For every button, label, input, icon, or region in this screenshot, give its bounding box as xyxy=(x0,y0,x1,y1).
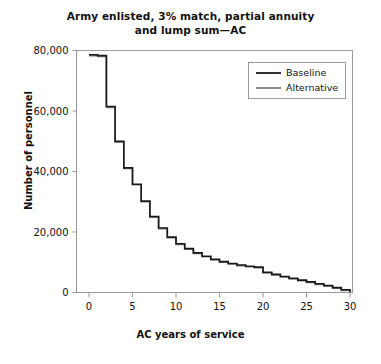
y-tick-label: 0 xyxy=(62,287,68,298)
legend-label-baseline: Baseline xyxy=(286,67,326,78)
chart-legend: BaselineAlternative xyxy=(249,63,346,99)
y-axis-label: Number of personnel xyxy=(23,61,34,241)
x-tick-label: 30 xyxy=(344,301,357,312)
y-tick-label: 40,000 xyxy=(34,166,69,177)
chart-figure: Army enlisted, 3% match, partial annuity… xyxy=(0,0,381,364)
x-tick-label: 10 xyxy=(170,301,183,312)
x-axis-label: AC years of service xyxy=(0,329,381,340)
x-tick-label: 0 xyxy=(86,301,92,312)
y-tick-label: 20,000 xyxy=(34,227,69,238)
x-tick-label: 5 xyxy=(129,301,135,312)
x-tick-label: 25 xyxy=(300,301,313,312)
y-tick-label: 80,000 xyxy=(34,45,69,56)
y-tick-label: 60,000 xyxy=(34,106,69,117)
x-tick-label: 20 xyxy=(257,301,270,312)
x-tick-label: 15 xyxy=(213,301,226,312)
chart-canvas: 020,00040,00060,00080,000 051015202530 B… xyxy=(0,0,381,364)
legend-label-alternative: Alternative xyxy=(286,82,338,93)
x-axis-ticks: 051015202530 xyxy=(86,293,357,312)
y-axis-ticks: 020,00040,00060,00080,000 xyxy=(34,45,77,298)
